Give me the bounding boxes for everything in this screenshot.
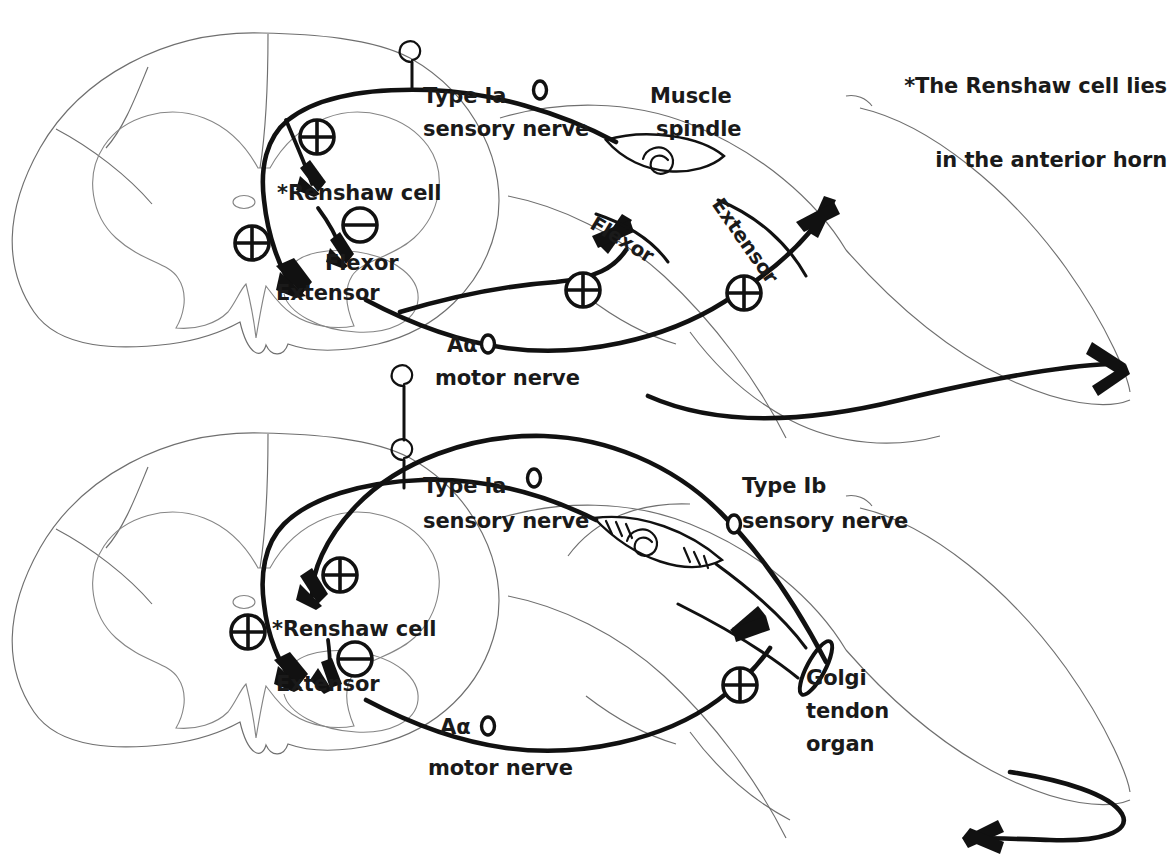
lower-type-ia-label-line2: sensory nerve [423, 509, 589, 534]
lower-type-ia-label-line1: Type Ia [423, 474, 506, 499]
golgi-tendon-organ-label-line1: Golgi [806, 666, 867, 691]
upper-type-ia-label-line2: sensory nerve [423, 117, 589, 142]
reflex-arc-diagram: *The Renshaw cell lies in the anterior h… [0, 0, 1173, 864]
lower-alpha-motor-label-line1: Aα [440, 715, 470, 740]
lower-alpha-motor-label-line2: motor nerve [428, 756, 573, 781]
upper-muscle-spindle-label-line1: Muscle [650, 84, 732, 109]
lower-extensor-neuron-label: Extensor [276, 672, 380, 697]
lower-limb-movement-arrow [962, 772, 1124, 854]
renshaw-cell-footnote: *The Renshaw cell lies in the anterior h… [904, 24, 1167, 222]
upper-alpha-motor-label-line1: Aα [447, 333, 477, 358]
golgi-tendon-organ-label-line3: organ [806, 732, 874, 757]
lower-renshaw-cell-label: *Renshaw cell [272, 617, 436, 642]
lower-muscle-spindle [594, 517, 722, 568]
footnote-line-2: in the anterior horn [904, 148, 1167, 173]
upper-extensor-neuron-label: Extensor [276, 281, 380, 306]
upper-alpha-motor-label-line2: motor nerve [435, 366, 580, 391]
golgi-tendon-organ-label-line2: tendon [806, 699, 889, 724]
upper-type-ia-label-line1: Type Ia [423, 84, 506, 109]
lower-type-ib-label-line2: sensory nerve [742, 509, 908, 534]
lower-type-ib-label-line1: Type Ib [742, 474, 826, 499]
upper-muscle-spindle-label-line2: spindle [656, 117, 741, 142]
upper-renshaw-cell-label: *Renshaw cell [277, 181, 441, 206]
upper-flexor-neuron-label: Flexor [325, 251, 399, 276]
footnote-line-1: *The Renshaw cell lies [904, 74, 1167, 99]
upper-limb-movement-arrow [648, 342, 1130, 418]
upper-type-ia-sensory-pathway [263, 41, 616, 298]
